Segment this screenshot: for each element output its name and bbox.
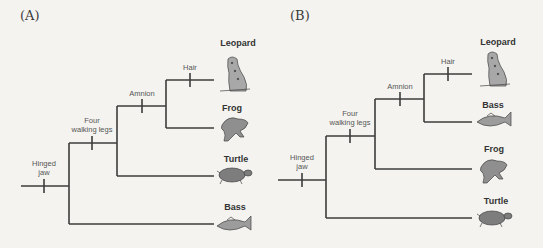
- trait-amnion-b: Amnion: [387, 82, 412, 91]
- taxon-label-bass-b: Bass: [482, 100, 504, 110]
- taxon-label-turtle-a: Turtle: [224, 154, 248, 164]
- turtle-icon: [217, 168, 252, 184]
- leopard-icon: [220, 57, 250, 91]
- tree-panel-b: (B): [270, 0, 543, 248]
- leopard-icon: [480, 52, 510, 86]
- taxon-label-frog-a: Frog: [222, 103, 242, 113]
- tree-panel-a: (A): [0, 0, 270, 248]
- taxon-label-leopard-b: Leopard: [480, 37, 516, 47]
- trait-hair-b: Hair: [441, 57, 455, 66]
- taxon-label-bass-a: Bass: [224, 202, 246, 212]
- trait-hinged-jaw-a: Hingedjaw: [32, 159, 56, 177]
- frog-icon: [480, 160, 507, 183]
- bass-icon: [477, 112, 511, 126]
- trait-amnion-a: Amnion: [129, 89, 154, 98]
- taxon-label-frog-b: Frog: [484, 144, 504, 154]
- bass-icon: [217, 216, 251, 230]
- taxon-label-turtle-b: Turtle: [484, 196, 508, 206]
- trait-four-walking-legs-b: Fourwalking legs: [330, 109, 371, 127]
- frog-icon: [221, 118, 248, 141]
- taxon-label-leopard-a: Leopard: [220, 38, 256, 48]
- turtle-icon: [477, 211, 512, 227]
- trait-hinged-jaw-b: Hingedjaw: [290, 153, 314, 171]
- trait-four-walking-legs-a: Fourwalking legs: [72, 116, 113, 134]
- trait-hair-a: Hair: [183, 63, 197, 72]
